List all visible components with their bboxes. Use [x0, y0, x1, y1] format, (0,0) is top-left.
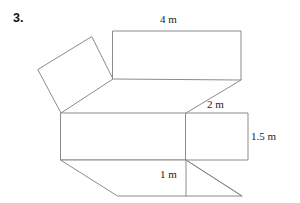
tilted-square-face	[38, 37, 113, 113]
top-rectangle-face	[113, 31, 241, 80]
figure-canvas: 3. 4 m 2 m 1.5 m 1 m	[0, 0, 300, 203]
dimension-label-slant: 2 m	[207, 98, 224, 111]
right-square-face	[186, 113, 248, 160]
dimension-label-bottom: 1 m	[160, 168, 177, 181]
main-rectangle-face	[61, 113, 186, 160]
geometry-net-diagram	[0, 0, 300, 203]
problem-number: 3.	[13, 11, 23, 25]
dimension-label-right: 1.5 m	[251, 130, 276, 143]
dimension-label-top: 4 m	[160, 13, 177, 26]
